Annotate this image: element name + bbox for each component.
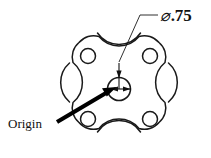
technical-drawing-canvas: ⌀.75 Origin [0, 0, 211, 158]
diameter-symbol-icon: ⌀ [160, 7, 171, 24]
diameter-leader-group [119, 15, 158, 62]
dimension-arrowhead-right [123, 87, 131, 92]
origin-label: Origin [8, 117, 42, 130]
bottom-edge-lens-arc [98, 121, 141, 132]
diameter-leader-line [119, 15, 158, 62]
hole-bottom-right [143, 112, 158, 127]
hole-top-right [143, 49, 158, 64]
top-edge-lens-arc [98, 33, 141, 44]
hole-bottom-left [81, 112, 96, 127]
left-edge-lens-arc [61, 63, 70, 102]
right-edge-lens-arc [169, 63, 178, 102]
diameter-callout-label: ⌀.75 [160, 7, 191, 24]
hole-top-left [81, 49, 96, 64]
origin-arrow-group [57, 87, 117, 122]
diameter-value: .75 [171, 6, 192, 25]
